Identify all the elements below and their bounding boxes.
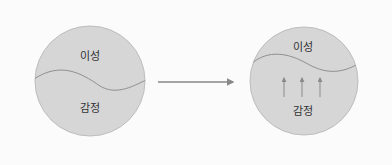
before-circle: 이성 감정 bbox=[34, 26, 146, 136]
emotion-label: 감정 bbox=[293, 105, 313, 118]
reason-label: 이성 bbox=[293, 41, 313, 54]
reason-label: 이성 bbox=[80, 50, 100, 63]
after-circle: 이성 감정 bbox=[250, 27, 358, 135]
emotion-label: 감정 bbox=[80, 102, 100, 115]
diagram-canvas: 이성 감정 이성 감정 bbox=[0, 0, 392, 165]
